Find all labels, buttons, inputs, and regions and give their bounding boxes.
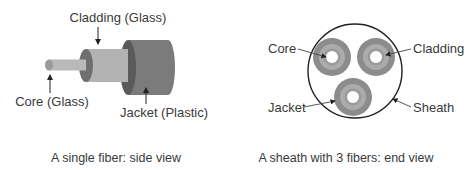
cladding-glass-label: Cladding (Glass) (70, 10, 167, 25)
fiber-cross-section (357, 38, 395, 76)
jacket-label: Jacket (268, 100, 306, 115)
sheath-label: Sheath (413, 100, 454, 115)
end-view-panel: Core Cladding Jacket Sheath A sheath wit… (258, 24, 464, 165)
cladding-cylinder (79, 49, 128, 82)
fiber-optic-diagram: Cladding (Glass) Core (Glass) Jacket (Pl… (0, 0, 472, 170)
fiber-cross-section (313, 38, 351, 76)
core-label: Core (268, 41, 296, 56)
side-view-panel: Cladding (Glass) Core (Glass) Jacket (Pl… (15, 10, 208, 165)
cladding-label: Cladding (413, 41, 464, 56)
core-rod (45, 60, 86, 71)
fiber-cross-section (334, 78, 372, 116)
jacket-cylinder (120, 40, 175, 95)
sheath-leader-arrow (393, 99, 411, 107)
end-view-caption: A sheath with 3 fibers: end view (258, 151, 434, 165)
jacket-plastic-label: Jacket (Plastic) (120, 105, 208, 120)
side-view-caption: A single fiber: side view (51, 151, 182, 165)
core-glass-label: Core (Glass) (15, 94, 89, 109)
